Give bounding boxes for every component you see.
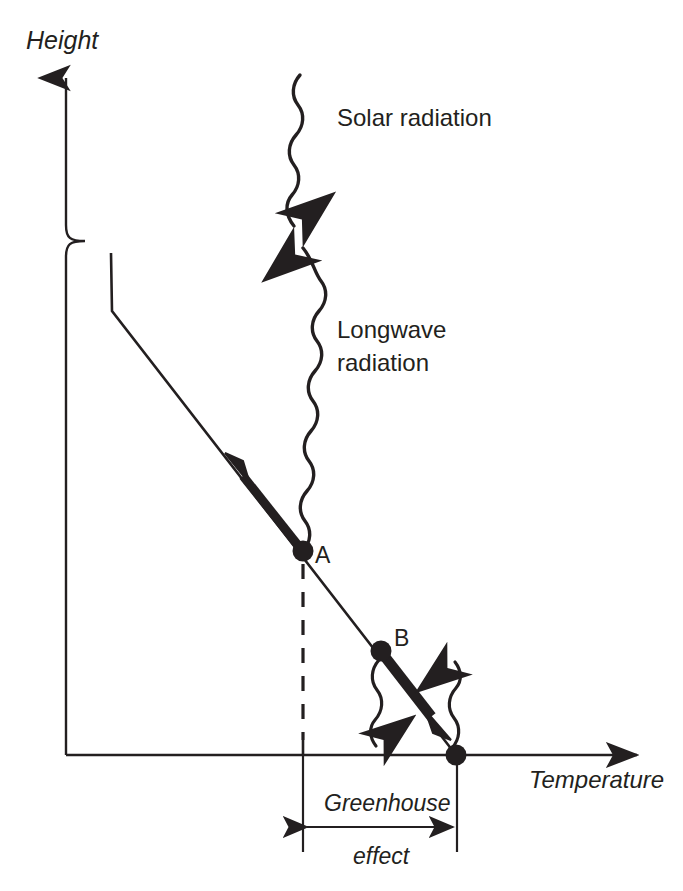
longwave-radiation-label-line2: radiation (337, 346, 446, 379)
y-axis-brace-icon (66, 225, 85, 257)
point-b-label: B (394, 625, 409, 652)
solar-radiation-wave (287, 75, 303, 226)
downward-wavy-arrow-from-b (371, 660, 382, 746)
data-point-b[interactable] (371, 641, 392, 662)
thick-arrow-upper (225, 453, 301, 549)
greenhouse-effect-label-line2: effect (353, 843, 409, 870)
longwave-radiation-wave (300, 248, 325, 551)
greenhouse-effect-label-line1: Greenhouse (324, 790, 451, 817)
y-axis-label: Height (26, 26, 98, 55)
point-a-label: A (315, 542, 330, 569)
thick-arrow-lower (383, 653, 451, 740)
data-point-surface[interactable] (446, 745, 467, 766)
solar-radiation-label: Solar radiation (337, 104, 492, 132)
x-axis-label: Temperature (529, 766, 664, 794)
longwave-radiation-label: Longwave radiation (337, 313, 446, 379)
upward-wavy-arrow-surface (449, 662, 460, 748)
greenhouse-effect-diagram (0, 0, 683, 891)
axis-group (66, 78, 637, 755)
longwave-radiation-label-line1: Longwave (337, 313, 446, 346)
data-point-a[interactable] (293, 541, 314, 562)
